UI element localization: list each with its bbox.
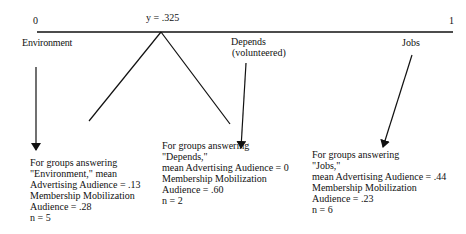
jobs-line-3: mean Advertising Audience = .44 xyxy=(312,171,446,182)
jobs-line-1: For groups answering xyxy=(312,149,446,160)
environment-line-6: n = 5 xyxy=(30,212,141,223)
depends-line-3: mean Advertising Audience = 0 xyxy=(162,162,289,173)
scale-left-value: 0 xyxy=(33,15,38,26)
category-depends-note: (volunteered) xyxy=(232,47,286,58)
environment-line-3: Advertising Audience = .13 xyxy=(30,179,141,190)
scale-right-value: 1 xyxy=(449,15,454,26)
jobs-result-block: For groups answering "Jobs," mean Advert… xyxy=(312,149,446,215)
depends-line-6: n = 2 xyxy=(162,195,289,206)
environment-result-block: For groups answering "Environment," mean… xyxy=(30,157,141,223)
category-jobs: Jobs xyxy=(402,37,420,48)
depends-line-2: "Depends," xyxy=(162,151,289,162)
environment-line-2: "Environment," mean xyxy=(30,168,141,179)
environment-line-1: For groups answering xyxy=(30,157,141,168)
category-depends: Depends xyxy=(231,36,266,47)
depends-line-1: For groups answering xyxy=(162,140,289,151)
jobs-line-5: Audience = .23 xyxy=(312,193,446,204)
jobs-line-4: Membership Mobilization xyxy=(312,182,446,193)
depends-result-block: For groups answering "Depends," mean Adv… xyxy=(162,140,289,206)
depends-line-5: Audience = .60 xyxy=(162,184,289,195)
jobs-line-2: "Jobs," xyxy=(312,160,446,171)
scale-mid-value: y = .325 xyxy=(146,12,179,23)
environment-line-4: Membership Mobilization xyxy=(30,190,141,201)
depends-arrow xyxy=(241,63,246,148)
depends-line-4: Membership Mobilization xyxy=(162,173,289,184)
category-environment: Environment xyxy=(22,37,72,48)
left-branch-line xyxy=(89,32,161,121)
jobs-line-6: n = 6 xyxy=(312,204,446,215)
environment-line-5: Audience = .28 xyxy=(30,201,141,212)
right-branch-line xyxy=(161,32,230,124)
jobs-arrow xyxy=(383,55,412,147)
